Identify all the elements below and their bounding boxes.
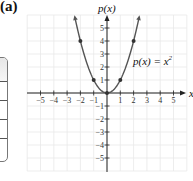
y-tick-label: −3: [95, 128, 104, 137]
y-tick-label: 2: [100, 63, 104, 72]
y-axis-label: p(x): [97, 2, 116, 15]
parabola-chart: −5−4−3−2−112345−5−4−3−2−112345 p(x) x p(…: [0, 0, 193, 181]
curve-arrow-icon: [136, 15, 140, 20]
y-tick-label: −2: [95, 115, 104, 124]
function-label: p(x) = x2: [132, 54, 173, 68]
y-tick-label: 5: [100, 24, 104, 33]
x-tick-label: 2: [132, 96, 136, 105]
y-tick-label: −1: [95, 102, 104, 111]
x-tick-label: 5: [172, 96, 176, 105]
x-axis-arrow-icon: [180, 91, 186, 96]
data-point: [78, 39, 82, 43]
x-tick-label: 4: [158, 96, 162, 105]
x-tick-label: −3: [63, 96, 72, 105]
x-tick-label: −2: [76, 96, 85, 105]
curve-arrow-icon: [73, 15, 77, 20]
y-tick-label: −4: [95, 141, 104, 150]
y-tick-label: −5: [95, 154, 104, 163]
data-point: [92, 78, 96, 82]
y-tick-label: 1: [100, 76, 104, 85]
y-axis-arrow-icon: [105, 15, 110, 21]
data-point: [105, 91, 109, 95]
x-axis-label: x: [188, 87, 193, 99]
x-tick-label: 3: [145, 96, 149, 105]
x-tick-label: −4: [50, 96, 59, 105]
y-tick-label: 3: [100, 50, 104, 59]
data-point: [118, 78, 122, 82]
data-point: [132, 39, 136, 43]
x-tick-label: 1: [118, 96, 122, 105]
x-tick-label: −5: [36, 96, 45, 105]
y-tick-label: 4: [100, 37, 104, 46]
